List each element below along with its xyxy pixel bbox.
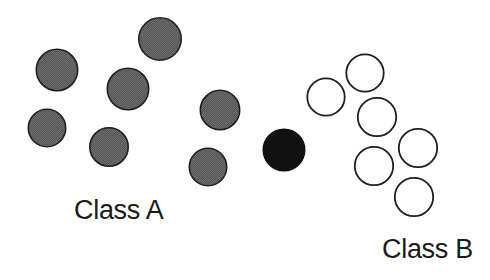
data-point-class-a-7 [189,148,226,185]
data-point-class-b-6 [395,178,433,216]
class-b-label: Class B [382,236,473,263]
data-point-class-b-3 [358,98,396,136]
data-point-class-a-6 [90,128,128,166]
data-point-class-a-2 [36,49,77,90]
data-point-class-b-1 [346,54,383,91]
data-markers-group [28,18,437,216]
data-point-query-point-1 [263,129,304,170]
data-point-class-b-5 [355,147,393,185]
class-a-label: Class A [74,197,163,224]
data-point-class-a-4 [200,90,239,129]
data-point-class-b-2 [307,78,344,115]
data-point-class-b-4 [399,129,437,167]
scatter-figure: Class A Class B [0,0,490,280]
data-point-class-a-3 [107,68,148,109]
data-point-class-a-1 [139,18,181,60]
data-point-class-a-5 [28,109,65,146]
